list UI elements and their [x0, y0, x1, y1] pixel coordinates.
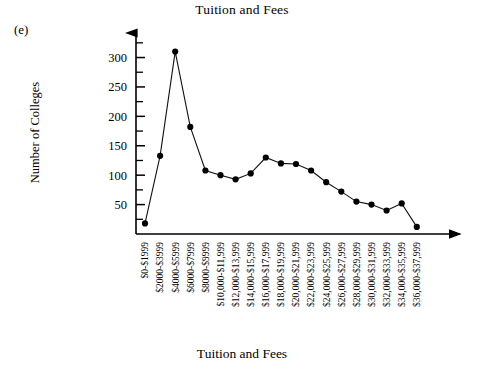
- x-tick-label: $10,000-$11,999: [216, 242, 226, 307]
- y-tick-label: 300: [108, 51, 127, 65]
- y-tick-label: 100: [108, 169, 127, 183]
- data-point: [323, 179, 329, 185]
- x-tick-label: $0-$1999: [140, 242, 150, 279]
- data-point: [157, 153, 163, 159]
- x-tick-label: $34,000-$35,999: [397, 242, 407, 307]
- chart-canvas: 50100150200250300 $0-$1999$2000-$3999$40…: [0, 0, 484, 372]
- x-tick-label: $32,000-$33,999: [382, 242, 392, 307]
- data-point: [217, 172, 223, 178]
- x-tick-label: $2000-$3999: [156, 242, 166, 293]
- x-tick-label: $30,000-$31,999: [367, 242, 377, 307]
- series-point-group: [142, 49, 420, 230]
- data-point: [414, 224, 420, 230]
- data-point: [368, 202, 374, 208]
- data-point: [263, 154, 269, 160]
- x-tick-label: $6000-$7999: [186, 242, 196, 293]
- x-tick-label: $20,000-$21,999: [291, 242, 301, 307]
- x-tick-label: $4000-$5999: [171, 242, 181, 293]
- x-tick-label: $14,000-$15,999: [246, 242, 256, 307]
- x-tick-label: $8000-$9999: [201, 242, 211, 293]
- y-tick-group: 50100150200250300: [108, 43, 145, 219]
- data-point: [202, 167, 208, 173]
- data-point: [278, 160, 284, 166]
- x-tick-label: $28,000-$29,999: [352, 242, 362, 307]
- x-tick-label: $24,000-$25,999: [322, 242, 332, 307]
- frequency-polygon-figure: Tuition and Fees (e) Number of Colleges …: [0, 0, 484, 372]
- x-tick-label: $18,000-$19,999: [276, 242, 286, 307]
- data-point: [293, 161, 299, 167]
- data-point: [248, 170, 254, 176]
- data-point: [142, 220, 148, 226]
- series-line-group: [145, 52, 417, 227]
- x-tick-label: $36,000-$37,999: [412, 242, 422, 307]
- x-tick-label: $16,000-$17,999: [261, 242, 271, 307]
- x-tick-label: $12,000-$13,999: [231, 242, 241, 307]
- y-tick-label: 250: [108, 80, 127, 94]
- y-tick-label: 150: [108, 139, 127, 153]
- x-tick-label: $22,000-$23,999: [307, 242, 317, 307]
- data-point: [338, 189, 344, 195]
- data-point: [353, 199, 359, 205]
- data-point: [187, 124, 193, 130]
- data-point: [308, 167, 314, 173]
- x-tick-label: $26,000-$27,999: [337, 242, 347, 307]
- data-point: [172, 49, 178, 55]
- y-tick-label: 50: [115, 198, 128, 212]
- x-tick-label-group: $0-$1999$2000-$3999$4000-$5999$6000-$799…: [140, 242, 422, 307]
- series-line: [145, 52, 417, 227]
- data-point: [399, 200, 405, 206]
- data-point: [384, 207, 390, 213]
- y-tick-label: 200: [108, 110, 127, 124]
- data-point: [233, 176, 239, 182]
